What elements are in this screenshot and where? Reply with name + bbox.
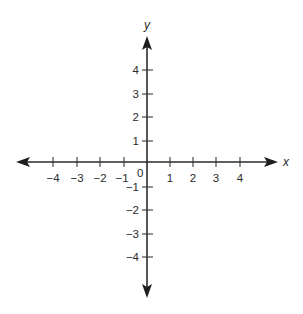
x-tick-label: 1 — [167, 172, 173, 184]
y-tick-label: 3 — [133, 88, 139, 100]
y-tick-label: −2 — [126, 204, 139, 216]
x-axis: x — [16, 155, 290, 169]
x-ticks: −4 −3 −2 −1 1 2 3 4 — [46, 157, 243, 184]
y-tick-label: 4 — [133, 64, 140, 76]
x-tick-label: 3 — [213, 172, 219, 184]
y-axis: y — [142, 18, 152, 298]
x-tick-label: −3 — [70, 172, 83, 184]
y-tick-label: −4 — [126, 251, 140, 263]
y-ticks: 4 3 2 1 −1 −2 −3 −4 — [126, 64, 153, 263]
y-tick-label: 2 — [133, 111, 139, 123]
origin-label: 0 — [137, 167, 143, 179]
y-tick-label: −3 — [126, 228, 139, 240]
y-tick-label: −1 — [126, 181, 139, 193]
x-axis-label: x — [282, 155, 290, 169]
y-tick-label: 1 — [133, 135, 139, 147]
x-tick-label: −2 — [93, 172, 106, 184]
x-tick-label: −4 — [46, 172, 60, 184]
x-tick-label: 2 — [190, 172, 196, 184]
y-axis-label: y — [143, 18, 151, 32]
coordinate-plane: x y 0 −4 −3 −2 −1 1 2 3 4 4 — [0, 0, 303, 314]
x-tick-label: 4 — [237, 172, 244, 184]
